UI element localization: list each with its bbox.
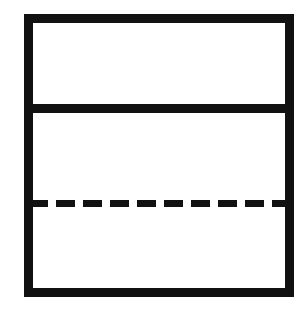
- diagram-canvas: [0, 0, 307, 311]
- top-band-region: [33, 23, 285, 104]
- middle-band-region: [33, 113, 285, 200]
- bottom-band-region: [33, 207, 285, 288]
- figure-drawing: [0, 0, 307, 311]
